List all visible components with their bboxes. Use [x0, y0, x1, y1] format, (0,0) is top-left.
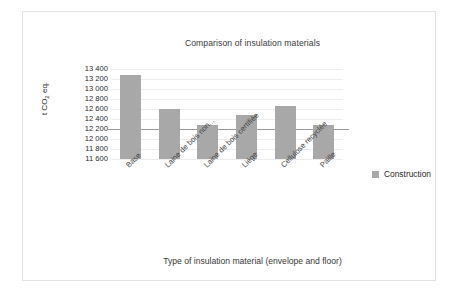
y-axis-title-prefix: t CO — [40, 99, 49, 115]
gridline — [111, 69, 343, 70]
y-tick-label: 12 000 — [85, 135, 108, 143]
y-tick-label: 13 400 — [85, 65, 108, 73]
y-tick-label: 13 000 — [85, 85, 108, 93]
y-tick-label: 11 800 — [85, 145, 108, 153]
gridline — [111, 159, 343, 160]
y-tick-label: 11 600 — [85, 155, 108, 163]
legend-label-construction: Construction — [384, 169, 431, 179]
legend-swatch-construction — [372, 171, 379, 178]
gridline — [111, 89, 343, 90]
y-tick-label: 12 200 — [85, 125, 108, 133]
y-axis-title: t CO2 eq. — [40, 69, 49, 129]
y-tick-label: 13 200 — [85, 75, 108, 83]
bar-1[interactable] — [120, 75, 141, 160]
chart-legend: Construction — [372, 169, 431, 179]
x-axis-title: Type of insulation material (envelope an… — [23, 256, 459, 266]
chart-frame: Comparison of insulation materials t CO2… — [22, 11, 436, 281]
y-axis-title-suffix: eq. — [40, 82, 49, 95]
chart-title: Comparison of insulation materials — [23, 38, 459, 48]
y-axis-tick-labels: 13 40013 20013 00012 80012 60012 40012 2… — [75, 69, 108, 159]
gridline — [111, 79, 343, 80]
y-tick-label: 12 600 — [85, 105, 108, 113]
y-axis-title-subscript: 2 — [43, 95, 49, 98]
gridline — [111, 99, 343, 100]
gridline — [111, 109, 343, 110]
gridline — [111, 119, 343, 120]
y-tick-label: 12 800 — [85, 95, 108, 103]
y-tick-label: 12 400 — [85, 115, 108, 123]
